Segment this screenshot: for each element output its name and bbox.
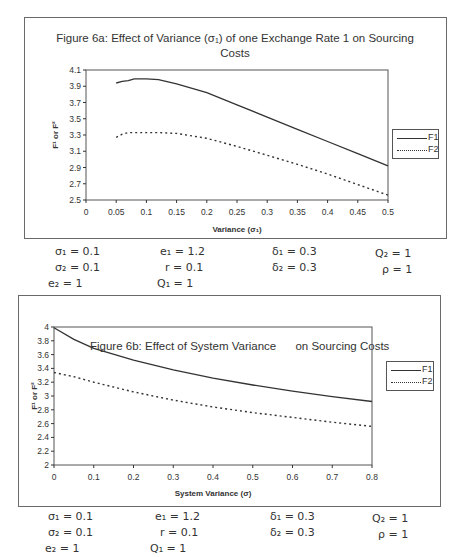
x-tick-label: 0.2 (128, 472, 140, 482)
x-tick-label: 0.8 (366, 472, 378, 482)
x-tick-label: 0 (52, 472, 57, 482)
y-tick-label: 2.6 (37, 419, 49, 429)
figure-6b-plot: 43.83.63.43.232.82.62.42.2200.10.20.30.4… (0, 0, 457, 557)
x-tick-label: 0.6 (287, 472, 299, 482)
legend-label-f2: F2 (422, 376, 433, 386)
y-tick-label: 2.2 (37, 446, 49, 456)
param-e1: e₁ = 1.2 (155, 510, 200, 523)
param-rho: ρ = 1 (378, 528, 408, 541)
dotted-line-icon (391, 382, 421, 383)
param-q2: Q₂ = 1 (372, 512, 408, 525)
x-tick-label: 0.7 (326, 472, 338, 482)
figure-6b-legend: F1 F2 (386, 361, 434, 391)
legend-label-f1: F1 (422, 364, 433, 374)
y-tick-label: 2.4 (37, 432, 49, 442)
param-e2: e₂ = 1 (45, 542, 79, 555)
param-delta2: δ₂ = 0.3 (270, 526, 315, 539)
series-line-f1 (54, 328, 372, 402)
solid-line-icon (391, 370, 421, 371)
x-tick-label: 0.4 (207, 472, 219, 482)
param-sigma1: σ₁ = 0.1 (48, 510, 93, 523)
legend-item-f1: F1 (387, 364, 433, 376)
param-r: r = 0.1 (160, 526, 198, 539)
y-tick-label: 3.8 (37, 336, 49, 346)
x-axis-title: System Variance (σ) (175, 489, 252, 498)
series-line-f2 (54, 373, 372, 427)
y-tick-label: 4 (44, 322, 49, 332)
y-tick-label: 3.6 (37, 350, 49, 360)
param-q1: Q₁ = 1 (150, 542, 186, 555)
param-sigma2: σ₂ = 0.1 (48, 526, 93, 539)
y-axis-title: F¹ or F² (30, 382, 39, 410)
y-tick-label: 3 (44, 391, 49, 401)
x-tick-label: 0.5 (247, 472, 259, 482)
x-tick-label: 0.3 (167, 472, 179, 482)
y-tick-label: 3.4 (37, 363, 49, 373)
param-delta1: δ₁ = 0.3 (270, 510, 315, 523)
x-tick-label: 0.1 (88, 472, 100, 482)
legend-item-f2: F2 (387, 376, 433, 388)
y-tick-label: 2 (44, 460, 49, 470)
